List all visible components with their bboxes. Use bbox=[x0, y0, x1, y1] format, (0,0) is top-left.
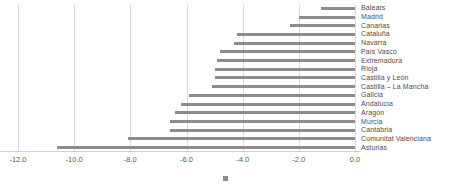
chart-legend bbox=[0, 172, 453, 184]
bar-row: Navarra bbox=[0, 39, 361, 48]
x-axis-baseline bbox=[0, 151, 361, 152]
bar-row: Galicia bbox=[0, 91, 361, 100]
bar-row: Aragón bbox=[0, 108, 361, 117]
category-label: Madrid bbox=[361, 13, 383, 21]
category-label: Comunitat Valenciana bbox=[361, 135, 431, 143]
category-label: Navarra bbox=[361, 39, 387, 47]
x-tick-label: -10.0 bbox=[66, 155, 83, 165]
category-label: Galicia bbox=[361, 91, 383, 99]
x-axis-tick-labels: -12.0-10.0-8.0-6.0-4.0-2.00.0 bbox=[0, 155, 453, 169]
bar-row: Balears bbox=[0, 4, 361, 13]
bar-row: País Vasco bbox=[0, 48, 361, 57]
category-label: Extremadura bbox=[361, 57, 402, 65]
bar bbox=[181, 103, 355, 106]
x-tick-label: -12.0 bbox=[9, 155, 26, 165]
bar bbox=[170, 129, 355, 132]
bar bbox=[189, 94, 355, 97]
category-label: Balears bbox=[361, 4, 385, 12]
bar bbox=[220, 50, 355, 53]
bar bbox=[128, 137, 355, 140]
bar-row: Comunitat Valenciana bbox=[0, 135, 361, 144]
category-label: Andalucía bbox=[361, 100, 393, 108]
category-label: Asturias bbox=[361, 144, 387, 152]
category-label: Cantabria bbox=[361, 126, 392, 134]
x-tick-label: -4.0 bbox=[236, 155, 249, 165]
bar-row: Murcia bbox=[0, 117, 361, 126]
category-label: Castilla – La Mancha bbox=[361, 83, 428, 91]
bar bbox=[212, 85, 355, 88]
category-label: País Vasco bbox=[361, 48, 397, 56]
bar bbox=[299, 16, 355, 19]
bar bbox=[215, 68, 355, 71]
bar bbox=[217, 59, 355, 62]
bar bbox=[234, 42, 355, 45]
category-label: Aragón bbox=[361, 109, 384, 117]
category-label: Canarias bbox=[361, 22, 390, 30]
horizontal-bar-chart: BalearsMadridCanariasCataluñaNavarraPaís… bbox=[0, 0, 453, 187]
category-label: Rioja bbox=[361, 65, 377, 73]
x-tick-label: 0.0 bbox=[350, 155, 360, 165]
bar-row: Castilla – La Mancha bbox=[0, 82, 361, 91]
bar-row: Rioja bbox=[0, 65, 361, 74]
square-marker-icon bbox=[223, 176, 228, 181]
bar bbox=[57, 146, 355, 149]
bar bbox=[237, 33, 355, 36]
bar bbox=[215, 76, 355, 79]
bar-row: Canarias bbox=[0, 21, 361, 30]
bar-row: Cataluña bbox=[0, 30, 361, 39]
category-label: Cataluña bbox=[361, 30, 390, 38]
bar-row: Cantabria bbox=[0, 126, 361, 135]
x-tick-label: -8.0 bbox=[124, 155, 137, 165]
x-tick-label: -2.0 bbox=[292, 155, 305, 165]
plot-area: BalearsMadridCanariasCataluñaNavarraPaís… bbox=[0, 4, 361, 152]
bar bbox=[170, 120, 355, 123]
bar-row: Madrid bbox=[0, 13, 361, 22]
category-label: Castilla y León bbox=[361, 74, 408, 82]
bar bbox=[175, 111, 355, 114]
x-tick-label: -6.0 bbox=[180, 155, 193, 165]
bar-row: Andalucía bbox=[0, 100, 361, 109]
category-label: Murcia bbox=[361, 118, 383, 126]
bar-row: Extremadura bbox=[0, 56, 361, 65]
bar bbox=[321, 7, 355, 10]
bar-row: Castilla y León bbox=[0, 74, 361, 83]
bar bbox=[290, 24, 355, 27]
